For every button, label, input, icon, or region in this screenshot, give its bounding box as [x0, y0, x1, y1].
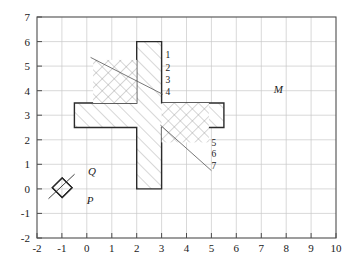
- coordinate-plot: -2 -1 0 1 2 3 4 5 6 7 8 9 10 7 6 5 4 3 2…: [0, 0, 358, 268]
- y-tick-label: -1: [21, 207, 30, 219]
- label-M: M: [273, 83, 284, 95]
- y-tick-label: 4: [25, 85, 31, 97]
- lattice-region-upper-left: [93, 60, 137, 103]
- label-1: 1: [165, 50, 170, 60]
- figure-container: -2 -1 0 1 2 3 4 5 6 7 8 9 10 7 6 5 4 3 2…: [0, 0, 358, 268]
- y-axis-tick-labels: 7 6 5 4 3 2 1 0 -1 -2: [21, 11, 31, 244]
- x-axis-tick-labels: -2 -1 0 1 2 3 4 5 6 7 8 9 10: [32, 242, 342, 254]
- label-3: 3: [165, 75, 170, 85]
- x-tick-label: 7: [259, 242, 265, 254]
- x-tick-label: 5: [209, 242, 215, 254]
- label-4: 4: [165, 87, 170, 97]
- x-tick-label: 4: [184, 242, 190, 254]
- x-tick-label: 9: [308, 242, 314, 254]
- label-5: 5: [211, 138, 216, 148]
- y-tick-label: 0: [25, 183, 31, 195]
- label-6: 6: [211, 149, 216, 159]
- x-tick-label: 1: [109, 242, 115, 254]
- x-tick-label: 8: [283, 242, 289, 254]
- label-7: 7: [211, 161, 216, 171]
- label-2: 2: [165, 63, 170, 73]
- y-tick-label: -2: [21, 232, 30, 244]
- y-tick-label: 1: [25, 158, 31, 170]
- x-tick-label: -1: [57, 242, 66, 254]
- x-tick-label: 2: [134, 242, 140, 254]
- label-P: P: [86, 194, 94, 206]
- x-tick-label: 6: [234, 242, 240, 254]
- y-tick-label: 5: [25, 60, 31, 72]
- lattice-region-lower-right: [162, 103, 209, 142]
- y-tick-label: 3: [25, 109, 31, 121]
- x-tick-label: 0: [84, 242, 90, 254]
- y-tick-label: 7: [25, 11, 31, 23]
- x-tick-label: 3: [159, 242, 165, 254]
- x-tick-label: 10: [331, 242, 343, 254]
- y-tick-label: 2: [25, 134, 31, 146]
- y-tick-label: 6: [25, 36, 31, 48]
- label-Q: Q: [88, 165, 96, 177]
- x-tick-label: -2: [32, 242, 41, 254]
